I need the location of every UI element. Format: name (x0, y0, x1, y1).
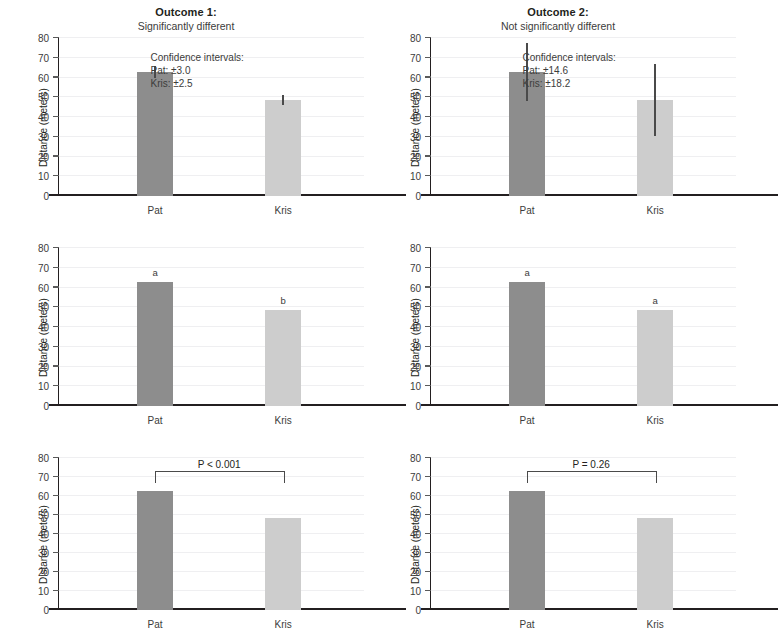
y-axis-tick-label: 0 (43, 401, 49, 412)
plot-area: 01020304050607080PatKrisConfidence inter… (58, 38, 364, 196)
chart-panel-o1-r3: Distance (meters) 01020304050607080PatKr… (0, 450, 372, 644)
bar-kris (637, 310, 673, 406)
y-axis-tick-label: 0 (415, 401, 421, 412)
y-axis-tick (53, 76, 59, 77)
y-axis-tick (53, 476, 59, 477)
y-axis-tick (425, 457, 431, 458)
y-axis-title: Distance (meters) (410, 253, 421, 423)
x-axis-tick-label-pat: Pat (520, 415, 535, 426)
y-axis-tick (53, 495, 59, 496)
y-axis-tick (425, 37, 431, 38)
column-outcome-2: Outcome 2: Not significantly different D… (372, 0, 744, 644)
gridline (59, 247, 364, 248)
gridline (431, 306, 736, 307)
y-axis-tick-label: 50 (410, 302, 421, 313)
y-axis-tick-label: 40 (410, 322, 421, 333)
bar-pat (137, 72, 173, 196)
y-axis-tick (53, 267, 59, 268)
gridline (431, 267, 736, 268)
y-axis-tick-label: 30 (38, 131, 49, 142)
y-axis-tick-label: 80 (410, 243, 421, 254)
gridline (59, 37, 364, 38)
gridline (431, 366, 736, 367)
y-axis-tick-label: 80 (410, 33, 421, 44)
y-axis-tick (53, 247, 59, 248)
panel-title-outcome-2: Outcome 2: Not significantly different (372, 6, 744, 33)
y-axis-tick (425, 571, 431, 572)
panel-title-outcome-1: Outcome 1: Significantly different (0, 6, 372, 33)
y-axis-tick-label: 80 (38, 243, 49, 254)
y-axis-tick (425, 495, 431, 496)
y-axis-tick-label: 60 (38, 491, 49, 502)
x-axis-tick-label-pat: Pat (148, 415, 163, 426)
error-bar-kris (282, 95, 283, 105)
y-axis-tick-label: 0 (43, 605, 49, 616)
y-axis-tick-label: 10 (410, 381, 421, 392)
page-title: Outcome 1: (0, 6, 372, 20)
significance-letter-kris: a (653, 295, 658, 306)
y-axis-tick (53, 533, 59, 534)
x-axis-line (49, 608, 406, 610)
x-axis-tick-label-pat: Pat (148, 205, 163, 216)
ci-note-heading: Confidence intervals: (523, 51, 616, 64)
x-axis-tick-label-kris: Kris (647, 205, 664, 216)
y-axis-tick-label: 30 (410, 131, 421, 142)
gridline (59, 175, 364, 176)
y-axis-tick-label: 10 (38, 586, 49, 597)
gridline (431, 96, 736, 97)
y-axis-tick-label: 10 (410, 586, 421, 597)
gridline (431, 552, 736, 553)
gridline (59, 116, 364, 117)
y-axis-tick (425, 365, 431, 366)
plot-area: 01020304050607080PatKrisP < 0.001 (58, 458, 364, 610)
y-axis-tick-label: 50 (38, 510, 49, 521)
y-axis-tick-label: 30 (38, 341, 49, 352)
gridline (431, 116, 736, 117)
y-axis-tick-label: 70 (38, 52, 49, 63)
significance-letter-pat: a (152, 267, 157, 278)
gridline (59, 590, 364, 591)
gridline (431, 533, 736, 534)
y-axis-tick-label: 0 (43, 191, 49, 202)
significance-letter-pat: a (524, 267, 529, 278)
y-axis-tick-label: 40 (38, 529, 49, 540)
y-axis-tick-label: 20 (38, 567, 49, 578)
ci-note-pat: Pat: ±14.6 (523, 64, 616, 77)
x-axis-line (49, 194, 406, 196)
bar-pat (509, 282, 545, 406)
y-axis-tick-label: 50 (410, 92, 421, 103)
gridline (431, 346, 736, 347)
y-axis-tick-label: 70 (410, 52, 421, 63)
y-axis-tick (425, 116, 431, 117)
y-axis-tick (425, 175, 431, 176)
y-axis-tick (53, 326, 59, 327)
x-axis-tick-label-pat: Pat (148, 619, 163, 630)
ci-note-pat: Pat: ±3.0 (151, 64, 244, 77)
x-axis-tick-label-kris: Kris (647, 415, 664, 426)
x-axis-tick-label-kris: Kris (275, 415, 292, 426)
gridline (59, 366, 364, 367)
gridline (59, 385, 364, 386)
chart-panel-o2-r1: Distance (meters) 01020304050607080PatKr… (372, 30, 744, 230)
y-axis-tick-label: 80 (38, 453, 49, 464)
y-axis-tick (425, 136, 431, 137)
p-value-label: P = 0.26 (572, 459, 609, 470)
bar-pat (509, 491, 545, 611)
gridline (431, 37, 736, 38)
x-axis-tick-label-pat: Pat (520, 619, 535, 630)
gridline (59, 306, 364, 307)
gridline (431, 571, 736, 572)
y-axis-tick (425, 346, 431, 347)
gridline (431, 287, 736, 288)
y-axis-tick (425, 514, 431, 515)
y-axis-tick-label: 30 (410, 548, 421, 559)
y-axis-tick (53, 365, 59, 366)
y-axis-tick (53, 116, 59, 117)
y-axis-tick (425, 385, 431, 386)
y-axis-tick (425, 247, 431, 248)
y-axis-tick (53, 590, 59, 591)
y-axis-tick-label: 30 (410, 341, 421, 352)
x-axis-line (49, 404, 406, 406)
y-axis-tick (425, 57, 431, 58)
